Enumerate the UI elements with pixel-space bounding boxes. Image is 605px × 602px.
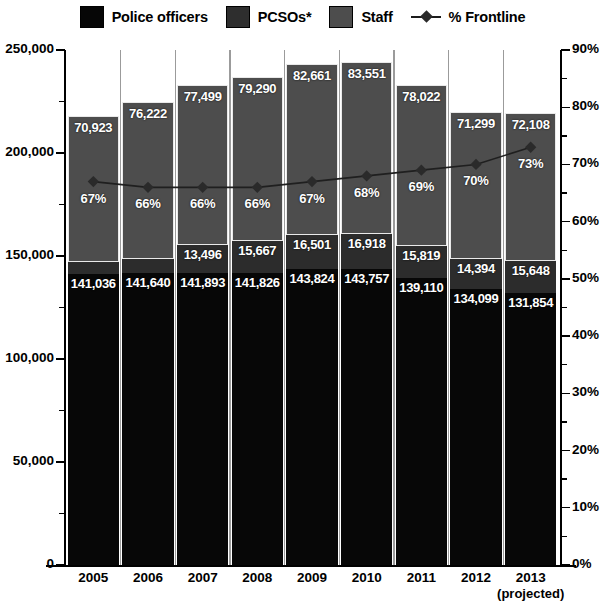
right-axis-tick bbox=[561, 393, 570, 394]
frontline-percent-label: 66% bbox=[135, 196, 160, 211]
left-axis-tick bbox=[56, 358, 65, 359]
x-axis-label: 2012 bbox=[461, 570, 491, 585]
right-axis-minor-tick bbox=[561, 536, 567, 537]
bar-segment-police-officers[interactable]: 141,826 bbox=[232, 273, 283, 565]
bar-segment-staff[interactable]: 83,551 bbox=[341, 62, 392, 234]
right-axis-tick bbox=[561, 49, 570, 50]
x-axis-label-note: (projected) bbox=[497, 586, 564, 601]
x-axis-label: 2011 bbox=[407, 570, 436, 585]
bar-segment-staff[interactable]: 70,923 bbox=[68, 116, 119, 262]
right-axis-minor-tick bbox=[561, 135, 567, 136]
frontline-percent-label: 70% bbox=[463, 173, 488, 188]
police-swatch-icon bbox=[80, 6, 104, 28]
x-axis-label: 2013(projected) bbox=[497, 570, 564, 601]
bar-value-label-pcsos: 14,394 bbox=[457, 261, 495, 276]
staff-swatch-icon bbox=[329, 6, 353, 28]
left-axis-tick bbox=[56, 461, 65, 462]
x-axis-label: 2009 bbox=[297, 570, 327, 585]
right-axis-line bbox=[560, 50, 562, 567]
left-axis-minor-tick bbox=[59, 101, 65, 102]
x-axis-label: 2010 bbox=[352, 570, 382, 585]
bar-group[interactable]: 141,0365,91070,923 bbox=[68, 50, 119, 565]
category-guide-line bbox=[120, 50, 121, 565]
bar-group[interactable]: 143,75716,91883,551 bbox=[341, 50, 392, 565]
left-axis-tick-label: 0 bbox=[0, 556, 54, 571]
left-axis-tick-label: 200,000 bbox=[0, 144, 54, 159]
legend-item-police-officers: Police officers bbox=[80, 6, 208, 28]
frontline-percent-label: 67% bbox=[81, 191, 106, 206]
right-axis-minor-tick bbox=[561, 192, 567, 193]
right-axis-tick-label: 70% bbox=[572, 155, 605, 170]
bar-value-label-pcsos: 15,819 bbox=[402, 248, 440, 263]
bar-segment-police-officers[interactable]: 131,854 bbox=[505, 293, 556, 565]
right-axis-tick-label: 0% bbox=[572, 556, 605, 571]
bar-segment-staff[interactable]: 79,290 bbox=[232, 77, 283, 240]
left-axis-tick bbox=[56, 564, 65, 565]
bar-group[interactable]: 141,89313,49677,499 bbox=[177, 50, 228, 565]
right-axis-tick bbox=[561, 335, 570, 336]
bottom-axis-line bbox=[46, 565, 576, 567]
right-axis-minor-tick bbox=[561, 421, 567, 422]
bar-value-label-staff: 72,108 bbox=[512, 117, 550, 132]
bar-value-label-police-officers: 141,826 bbox=[235, 275, 280, 290]
legend-item-frontline: % Frontline bbox=[411, 9, 526, 25]
bar-value-label-police-officers: 143,757 bbox=[344, 271, 389, 286]
bar-segment-police-officers[interactable]: 143,757 bbox=[341, 269, 392, 565]
bar-value-label-staff: 70,923 bbox=[74, 120, 112, 135]
bar-value-label-police-officers: 141,036 bbox=[71, 276, 116, 291]
bar-group[interactable]: 131,85415,64872,108 bbox=[505, 50, 556, 565]
bar-value-label-pcsos: 15,648 bbox=[512, 263, 550, 278]
category-guide-line bbox=[284, 50, 285, 565]
bar-segment-staff[interactable]: 77,499 bbox=[177, 85, 228, 245]
bar-segment-police-officers[interactable]: 141,036 bbox=[68, 274, 119, 565]
frontline-percent-label: 66% bbox=[190, 196, 215, 211]
bar-segment-staff[interactable]: 82,661 bbox=[286, 64, 337, 234]
bar-segment-pcsos[interactable]: 15,667 bbox=[232, 241, 283, 273]
bar-segment-staff[interactable]: 76,222 bbox=[122, 102, 173, 259]
bar-segment-pcsos[interactable]: 6,769 bbox=[122, 259, 173, 273]
frontline-percent-label: 69% bbox=[409, 179, 434, 194]
legend-label-police-officers: Police officers bbox=[112, 9, 208, 25]
bar-segment-pcsos[interactable]: 5,910 bbox=[68, 262, 119, 274]
category-guide-line bbox=[339, 50, 340, 565]
bar-segment-pcsos[interactable]: 16,918 bbox=[341, 234, 392, 269]
frontline-line-marker-icon bbox=[411, 11, 441, 23]
x-axis-label: 2008 bbox=[242, 570, 272, 585]
right-axis-tick-label: 20% bbox=[572, 442, 605, 457]
bar-segment-police-officers[interactable]: 139,110 bbox=[396, 278, 447, 565]
bar-segment-staff[interactable]: 72,108 bbox=[505, 113, 556, 262]
right-axis-tick bbox=[561, 507, 570, 508]
bar-segment-pcsos[interactable]: 16,501 bbox=[286, 235, 337, 269]
left-axis-tick-label: 150,000 bbox=[0, 247, 54, 262]
bar-group[interactable]: 141,82615,66779,290 bbox=[232, 50, 283, 565]
category-guide-line bbox=[503, 50, 504, 565]
bar-group[interactable]: 143,82416,50182,661 bbox=[286, 50, 337, 565]
left-axis-minor-tick bbox=[59, 307, 65, 308]
bar-segment-staff[interactable]: 78,022 bbox=[396, 85, 447, 246]
category-guide-line bbox=[393, 50, 394, 565]
bar-group[interactable]: 139,11015,81978,022 bbox=[396, 50, 447, 565]
bar-segment-pcsos[interactable]: 14,394 bbox=[450, 259, 501, 289]
bar-segment-police-officers[interactable]: 141,640 bbox=[122, 273, 173, 565]
pcso-swatch-icon bbox=[226, 6, 250, 28]
right-axis-minor-tick bbox=[561, 478, 567, 479]
right-axis-tick bbox=[561, 221, 570, 222]
x-axis-label: 2007 bbox=[188, 570, 218, 585]
bar-value-label-police-officers: 131,854 bbox=[508, 295, 553, 310]
right-axis-tick-label: 30% bbox=[572, 384, 605, 399]
category-guide-line bbox=[448, 50, 449, 565]
bar-segment-police-officers[interactable]: 143,824 bbox=[286, 269, 337, 565]
bar-segment-pcsos[interactable]: 15,819 bbox=[396, 246, 447, 279]
bar-value-label-staff: 71,299 bbox=[457, 116, 495, 131]
frontline-percent-label: 67% bbox=[299, 191, 324, 206]
bar-group[interactable]: 141,6406,76976,222 bbox=[122, 50, 173, 565]
bar-group[interactable]: 134,09914,39471,299 bbox=[450, 50, 501, 565]
bar-segment-police-officers[interactable]: 141,893 bbox=[177, 273, 228, 565]
bar-value-label-police-officers: 141,640 bbox=[126, 275, 171, 290]
bar-segment-police-officers[interactable]: 134,099 bbox=[450, 289, 501, 565]
bar-segment-pcsos[interactable]: 13,496 bbox=[177, 245, 228, 273]
bar-segment-pcsos[interactable]: 15,648 bbox=[505, 261, 556, 293]
right-axis-tick-label: 50% bbox=[572, 270, 605, 285]
right-axis-tick-label: 60% bbox=[572, 213, 605, 228]
category-guide-line bbox=[175, 50, 176, 565]
